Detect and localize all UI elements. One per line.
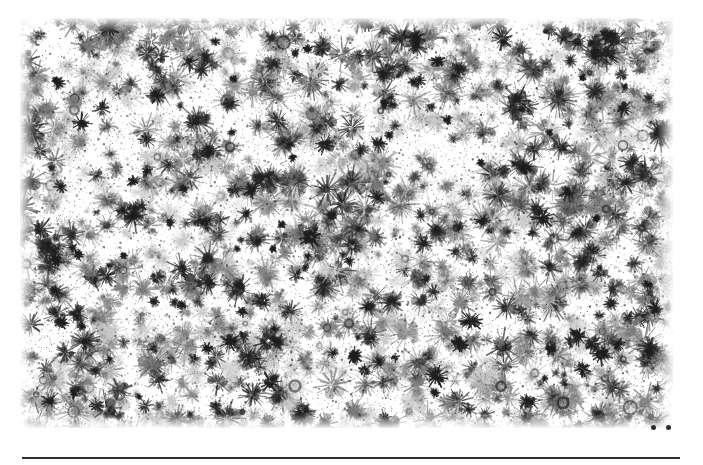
stray-dot-left: [651, 425, 656, 430]
texture-canvas: [20, 18, 673, 428]
page-root: [0, 0, 703, 465]
stray-dot-right: [666, 425, 671, 430]
horizontal-rule: [22, 457, 680, 459]
texture-plate: [20, 18, 673, 428]
